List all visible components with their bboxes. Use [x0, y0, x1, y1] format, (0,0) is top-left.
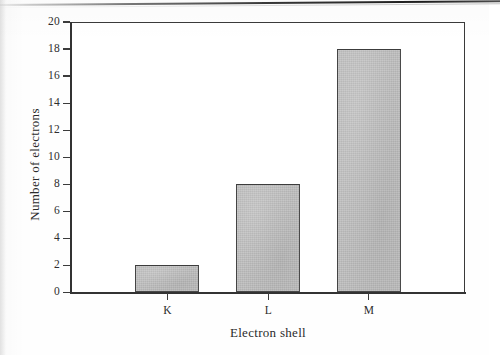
x-axis-tick-label: L — [248, 304, 288, 317]
y-axis-tick — [63, 21, 70, 22]
x-axis-tick — [167, 293, 168, 300]
y-axis-tick-label: 20 — [26, 16, 60, 28]
y-axis-tick — [63, 211, 70, 212]
y-axis-tick-label: 0 — [26, 286, 60, 298]
y-axis-tick — [63, 130, 70, 131]
x-axis-tick-label: K — [147, 304, 187, 317]
y-axis-tick-label: 18 — [26, 43, 60, 55]
y-axis-tick-label: 2 — [26, 259, 60, 271]
y-axis-tick — [63, 238, 70, 239]
bar-k — [135, 265, 199, 292]
x-axis-tick — [268, 293, 269, 300]
x-axis-title: Electron shell — [70, 326, 466, 340]
y-axis-tick — [63, 48, 70, 49]
bar-m — [337, 49, 401, 292]
bar-l — [236, 184, 300, 292]
y-axis-tick — [63, 292, 70, 293]
x-axis-tick-label: M — [349, 304, 389, 317]
y-axis-tick — [63, 157, 70, 158]
y-axis-tick — [63, 75, 70, 76]
y-axis-title: Number of electrons — [28, 75, 41, 255]
x-axis-tick — [368, 293, 369, 300]
y-axis-line — [70, 22, 72, 294]
y-axis-tick — [63, 184, 70, 185]
y-axis-tick — [63, 265, 70, 266]
y-axis-tick — [63, 103, 70, 104]
